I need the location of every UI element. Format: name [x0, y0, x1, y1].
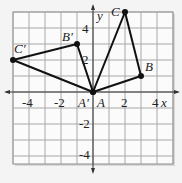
vertex-point — [10, 57, 16, 63]
x-tick-neg4: -4 — [22, 95, 33, 110]
vertex-point — [138, 73, 144, 79]
x-axis-left-arrow-icon — [4, 90, 10, 94]
y-axis-down-arrow-icon — [91, 168, 95, 174]
x-axis-right-arrow-icon — [174, 90, 180, 94]
coordinate-plane: ABCA'B'C' -4 -2 2 4 x 4 2 -2 -4 y — [0, 0, 182, 183]
vertex-point — [122, 9, 128, 15]
y-tick-neg4: -4 — [79, 147, 90, 162]
vertex-point — [74, 41, 80, 47]
y-axis-label: y — [95, 8, 103, 23]
vertex-label: A — [96, 95, 105, 110]
x-tick-2: 2 — [121, 95, 128, 110]
vertex-label: B — [145, 59, 153, 74]
x-axis-label: x — [160, 95, 167, 110]
vertex-label: B' — [62, 29, 73, 44]
y-tick-4: 4 — [82, 21, 89, 36]
vertex-label: C — [111, 4, 120, 19]
x-tick-4: 4 — [152, 95, 159, 110]
y-axis-up-arrow-icon — [91, 4, 95, 10]
y-tick-neg2: -2 — [79, 116, 90, 131]
vertex-label: A' — [77, 95, 89, 110]
y-tick-2: 2 — [82, 52, 89, 67]
x-tick-neg2: -2 — [54, 95, 65, 110]
vertex-point — [90, 89, 96, 95]
vertex-label: C' — [14, 41, 26, 56]
